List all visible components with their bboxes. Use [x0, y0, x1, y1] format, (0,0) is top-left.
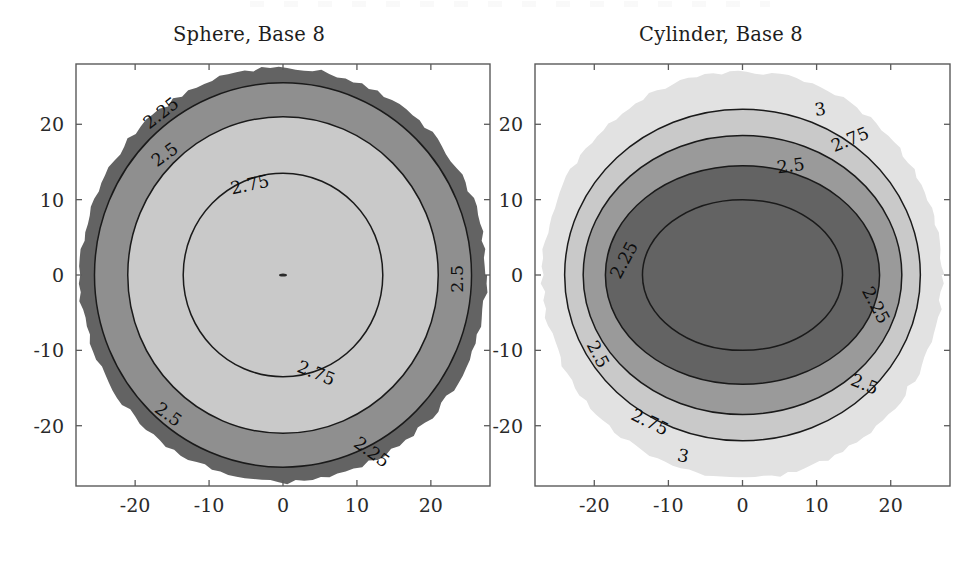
xtick-label: -10 [653, 494, 684, 516]
xtick-label: 0 [277, 494, 289, 516]
ytick-label: 0 [52, 264, 64, 286]
xtick-label: -20 [120, 494, 151, 516]
ytick-label: 10 [499, 189, 523, 211]
ytick-label: -10 [33, 339, 64, 361]
ytick-label: 10 [40, 189, 64, 211]
xtick-label: 20 [879, 494, 903, 516]
ytick-label: 20 [40, 113, 64, 135]
xtick-label: -10 [194, 494, 225, 516]
contour-label-2.5: 2.5 [775, 154, 805, 178]
contour-plot-cylinder: 32.752.52.252.252.52.52.753-20-100102020… [490, 0, 980, 574]
xtick-label: 10 [805, 494, 829, 516]
contour-band-3 [642, 200, 842, 351]
contour-label-2.5: 2.5 [447, 265, 467, 293]
figure-root: Sphere, Base 8 2.252.52.752.52.752.52.25… [0, 0, 980, 574]
ytick-label: 20 [499, 113, 523, 135]
center-marker [279, 273, 287, 276]
panel-cylinder: Cylinder, Base 8 32.752.52.252.252.52.52… [490, 0, 980, 574]
ytick-label: -20 [33, 415, 64, 437]
panel-sphere: Sphere, Base 8 2.252.52.752.52.752.52.25… [0, 0, 490, 574]
xtick-label: -20 [579, 494, 610, 516]
xtick-label: 10 [345, 494, 369, 516]
ytick-label: -20 [492, 415, 523, 437]
xtick-label: 20 [419, 494, 443, 516]
ytick-label: -10 [492, 339, 523, 361]
xtick-label: 0 [736, 494, 748, 516]
contour-plot-sphere: 2.252.52.752.52.752.52.25-20-10010202010… [0, 0, 490, 574]
ytick-label: 0 [511, 264, 523, 286]
